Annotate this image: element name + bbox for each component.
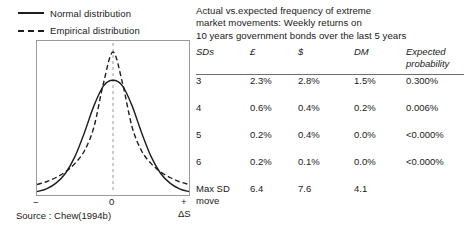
cell-expected: 0.006% <box>406 102 464 129</box>
cell-usd: 0.4% <box>298 129 354 156</box>
cell-expected: <0.000% <box>406 156 464 183</box>
source-caption: Source : Chew(1994b) <box>16 210 111 221</box>
cell-usd: 0.4% <box>298 102 354 129</box>
cell-dm: 0.0% <box>354 129 406 156</box>
cell-usd: 0.1% <box>298 156 354 183</box>
cell-sd: 5 <box>196 129 250 156</box>
solid-line-icon <box>18 8 44 18</box>
table-title: Actual vs.expected frequency of extreme … <box>196 5 464 42</box>
axis-label-delta-s: ΔS <box>178 208 191 219</box>
table-header-row: SDs £ $ DM Expected probability <box>196 46 464 71</box>
axis-label-positive: + <box>181 196 187 207</box>
cell-sd: 4 <box>196 102 250 129</box>
legend-item-normal: Normal distribution <box>18 6 193 20</box>
column-header-gbp: £ <box>250 46 298 71</box>
frequency-table: SDs £ $ DM Expected probability 3 2.3% 2… <box>196 46 464 206</box>
cell-dm: 0.0% <box>354 156 406 183</box>
legend-label-empirical: Empirical distribution <box>50 25 140 36</box>
table-title-line-2: market movements: Weekly returns on <box>196 17 464 29</box>
cell-gbp: 0.2% <box>250 156 298 183</box>
max-sd-label-line-2: move <box>196 195 250 207</box>
table-row-max-sd: Max SD move 6.4 7.6 4.1 <box>196 183 464 206</box>
cell-gbp: 0.2% <box>250 129 298 156</box>
table-title-line-3: 10 years government bonds over the last … <box>196 30 464 42</box>
table-row: 3 2.3% 2.8% 1.5% 0.300% <box>196 75 464 103</box>
cell-max-gbp: 6.4 <box>250 183 298 206</box>
statistics-panel: Actual vs.expected frequency of extreme … <box>196 5 464 206</box>
column-header-expected-probability: Expected probability <box>406 46 464 71</box>
cell-max-expected <box>406 183 464 206</box>
legend-item-empirical: Empirical distribution <box>18 23 193 37</box>
table-row: 6 0.2% 0.1% 0.0% <0.000% <box>196 156 464 183</box>
cell-expected: <0.000% <box>406 129 464 156</box>
cell-max-dm: 4.1 <box>354 183 406 206</box>
column-header-expected-line-1: Expected <box>406 46 464 58</box>
distribution-plot <box>36 40 190 196</box>
cell-dm: 1.5% <box>354 75 406 103</box>
distribution-curves <box>37 41 189 195</box>
cell-usd: 2.8% <box>298 75 354 103</box>
cell-max-sd-label: Max SD move <box>196 183 250 206</box>
cell-gbp: 0.6% <box>250 102 298 129</box>
column-header-sds: SDs <box>196 46 250 71</box>
column-header-expected-line-2: probability <box>406 58 464 70</box>
chart-legend: Normal distribution Empirical distributi… <box>18 6 193 40</box>
table-row: 4 0.6% 0.4% 0.2% 0.006% <box>196 102 464 129</box>
cell-expected: 0.300% <box>406 75 464 103</box>
column-header-usd: $ <box>298 46 354 71</box>
table-row: 5 0.2% 0.4% 0.0% <0.000% <box>196 129 464 156</box>
max-sd-label-line-1: Max SD <box>196 183 250 195</box>
legend-label-normal: Normal distribution <box>50 8 131 19</box>
axis-label-zero: 0 <box>109 196 114 207</box>
cell-sd: 6 <box>196 156 250 183</box>
axis-label-negative: − <box>33 197 39 208</box>
dashed-line-icon <box>18 25 44 35</box>
cell-sd: 3 <box>196 75 250 103</box>
cell-max-usd: 7.6 <box>298 183 354 206</box>
cell-gbp: 2.3% <box>250 75 298 103</box>
table-title-line-1: Actual vs.expected frequency of extreme <box>196 5 464 17</box>
column-header-dm: DM <box>354 46 406 71</box>
table-body: 3 2.3% 2.8% 1.5% 0.300% 4 0.6% 0.4% 0.2%… <box>196 75 464 207</box>
cell-dm: 0.2% <box>354 102 406 129</box>
